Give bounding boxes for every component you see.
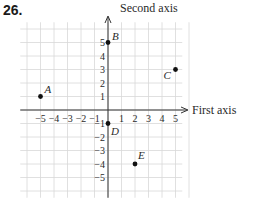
x-tick-label: −2	[76, 113, 87, 124]
y-tick-label: 3	[100, 64, 105, 75]
coordinate-plane: −5−4−3−2−11234554321−1−2−3−4−5 ABCDE Sec…	[0, 0, 257, 198]
point-b	[106, 40, 111, 45]
point-label-e: E	[137, 149, 145, 161]
y-tick-label: −2	[94, 132, 105, 143]
x-tick-label: 1	[119, 113, 124, 124]
y-tick-label: 2	[100, 78, 105, 89]
y-tick-label: −5	[94, 172, 105, 183]
point-d	[106, 121, 111, 126]
point-a	[38, 94, 43, 99]
x-tick-label: 4	[160, 113, 165, 124]
y-tick-label: 4	[100, 51, 105, 62]
y-tick-label: −4	[94, 159, 105, 170]
y-tick-label: 5	[100, 37, 105, 48]
y-tick-label: 1	[100, 91, 105, 102]
x-tick-label: −4	[49, 113, 60, 124]
y-axis-title: Second axis	[120, 1, 178, 15]
point-e	[133, 162, 138, 167]
x-tick-label: 2	[133, 113, 138, 124]
y-tick-label: −3	[94, 145, 105, 156]
y-tick-label: −1	[94, 118, 105, 129]
point-label-b: B	[112, 30, 119, 42]
x-tick-label: −3	[62, 113, 73, 124]
point-label-a: A	[44, 83, 52, 95]
point-c	[173, 67, 178, 72]
point-label-c: C	[164, 69, 172, 81]
x-axis-title: First axis	[192, 103, 237, 117]
x-tick-label: 3	[146, 113, 151, 124]
x-tick-label: −5	[35, 113, 46, 124]
x-tick-label: 5	[173, 113, 178, 124]
point-label-d: D	[110, 125, 119, 137]
